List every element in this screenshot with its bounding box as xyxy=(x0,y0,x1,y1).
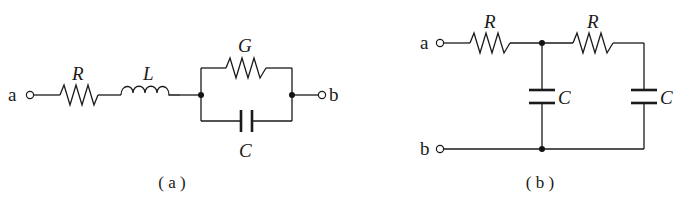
terminal-a-label: a xyxy=(8,84,17,105)
conductance-g-icon xyxy=(226,58,266,78)
caption-a: ( a ) xyxy=(158,173,185,192)
resistor-r-icon xyxy=(60,85,98,105)
resistor-r2-label: R xyxy=(586,11,599,32)
resistor-r1-icon xyxy=(470,33,510,53)
terminal-b-circle xyxy=(318,91,325,98)
terminal-b-label: b xyxy=(329,84,339,105)
resistor-r2-icon xyxy=(573,33,613,53)
capacitor-c2-label: C xyxy=(660,87,673,108)
terminal-a-label: a xyxy=(420,32,429,53)
caption-b: ( b ) xyxy=(526,173,554,192)
resistor-r1-label: R xyxy=(483,11,496,32)
circuit-a: a R L G C b ( a ) xyxy=(8,35,339,192)
resistor-r-label: R xyxy=(71,63,84,84)
terminal-b-circle xyxy=(436,145,443,152)
circuit-figure: a R L G C b ( a ) a xyxy=(0,0,683,210)
terminal-a-circle xyxy=(436,39,443,46)
inductor-l-label: L xyxy=(142,63,154,84)
circuit-b: a R R C C b ( b ) xyxy=(420,11,673,192)
capacitor-c-label: C xyxy=(239,140,252,161)
terminal-b-label: b xyxy=(420,138,430,159)
capacitor-c1-label: C xyxy=(558,87,571,108)
conductance-g-label: G xyxy=(238,35,252,56)
terminal-a-circle xyxy=(26,91,33,98)
junction-node xyxy=(539,146,545,152)
inductor-l-icon xyxy=(121,86,180,95)
